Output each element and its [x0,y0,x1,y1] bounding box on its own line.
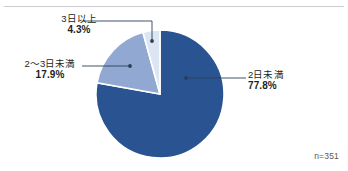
slice-label-3-days-or-more-category: 3日以上 [48,13,110,24]
pie-chart-figure: 3日以上 4.3% 2〜3日未満 17.9% 2日未満 77.8% n=351 [0,0,348,171]
top-divider-rule [4,6,344,7]
slice-label-under-2-days-category: 2日未満 [248,69,340,80]
slice-label-3-days-or-more-value: 4.3% [48,24,110,36]
pie-svg [96,30,224,158]
slice-label-3-days-or-more: 3日以上 4.3% [48,13,110,36]
slice-label-under-2-days-value: 77.8% [248,80,340,92]
pie-chart-graphic [96,30,224,158]
slice-label-under-2-days: 2日未満 77.8% [248,69,340,92]
slice-label-2-to-3-days-value: 17.9% [8,69,92,81]
sample-size-annotation: n=351 [314,151,339,161]
slice-label-2-to-3-days-category: 2〜3日未満 [8,58,92,69]
slice-label-2-to-3-days: 2〜3日未満 17.9% [8,58,92,81]
